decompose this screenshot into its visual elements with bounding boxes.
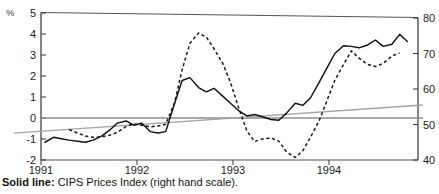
dashed-series-line bbox=[69, 33, 400, 158]
right-axis-tick-label-70: 70 bbox=[423, 48, 435, 60]
left-axis-tick-label-1: 1 bbox=[30, 91, 36, 103]
left-axis-tick-label-2: 2 bbox=[30, 70, 36, 82]
right-axis-tick-labels: 80 70 60 50 40 bbox=[423, 12, 435, 166]
right-axis-ticks bbox=[413, 18, 418, 160]
caption-series-text: CIPS Prices Index (right hand scale). bbox=[58, 176, 238, 188]
line-chart: % 5 4 3 2 1 0 -1 -2 80 70 60 50 40 bbox=[0, 0, 439, 194]
right-axis-tick-label-40: 40 bbox=[423, 154, 435, 166]
right-axis-tick-label-80: 80 bbox=[423, 12, 435, 24]
series-group bbox=[14, 33, 423, 158]
left-axis-tick-label-4: 4 bbox=[30, 28, 36, 40]
left-axis-tick-labels: % 5 4 3 2 1 0 -1 -2 bbox=[6, 7, 36, 166]
left-axis-tick-label-neg1: -1 bbox=[26, 133, 36, 145]
right-axis-tick-label-50: 50 bbox=[423, 119, 435, 131]
left-axis-tick-label-0: 0 bbox=[30, 112, 36, 124]
left-axis-tick-label-5: 5 bbox=[30, 7, 36, 19]
x-axis-ticks bbox=[41, 160, 329, 165]
caption-series-key: Solid line: bbox=[2, 176, 55, 188]
right-axis-tick-label-60: 60 bbox=[423, 83, 435, 95]
chart-figure: % 5 4 3 2 1 0 -1 -2 80 70 60 50 40 bbox=[0, 0, 439, 194]
left-axis-unit-label: % bbox=[6, 7, 15, 18]
chart-caption: Solid line: CIPS Prices Index (right han… bbox=[2, 175, 437, 189]
cips-prices-index-line bbox=[45, 34, 408, 142]
axis-top-line bbox=[41, 13, 418, 18]
left-axis-tick-label-3: 3 bbox=[30, 49, 36, 61]
left-axis-ticks bbox=[41, 13, 46, 160]
trend-line bbox=[14, 105, 423, 133]
